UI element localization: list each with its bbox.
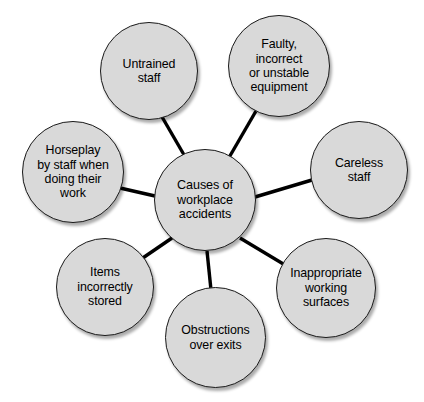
node-untrained-staff[interactable]: Untrained staff [100,22,198,120]
node-careless-staff[interactable]: Careless staff [310,121,408,219]
node-obstructions-over-exits[interactable]: Obstructions over exits [165,287,266,388]
edge-center-to-horseplay-by-staff [120,188,155,196]
node-label-items-incorrectly-stored: Items incorrectly stored [72,265,137,308]
node-label-untrained-staff: Untrained staff [118,57,181,86]
node-label-horseplay-by-staff: Horseplay by staff when doing their work [32,143,113,201]
node-causes-of-workplace-accidents[interactable]: Causes of workplace accidents [154,149,256,251]
radial-diagram: Causes of workplace accidents Untrained … [0,0,424,402]
node-faulty-equipment[interactable]: Faulty, incorrect or unstable equipment [228,15,330,117]
edge-center-to-inappropriate-surfaces [240,238,285,265]
node-label-inappropriate-surfaces: Inappropriate working surfaces [285,266,367,309]
edge-center-to-obstructions-over-exits [207,251,211,290]
node-label-careless-staff: Careless staff [330,156,388,185]
node-horseplay-by-staff[interactable]: Horseplay by staff when doing their work [22,121,124,223]
node-label-obstructions-over-exits: Obstructions over exits [176,323,254,352]
node-items-incorrectly-stored[interactable]: Items incorrectly stored [56,238,154,336]
node-label-faulty-equipment: Faulty, incorrect or unstable equipment [244,37,314,95]
edge-center-to-faulty-equipment [227,111,256,161]
node-inappropriate-surfaces[interactable]: Inappropriate working surfaces [276,238,376,338]
edge-center-to-careless-staff [255,180,312,197]
node-label-center: Causes of workplace accidents [172,178,238,222]
